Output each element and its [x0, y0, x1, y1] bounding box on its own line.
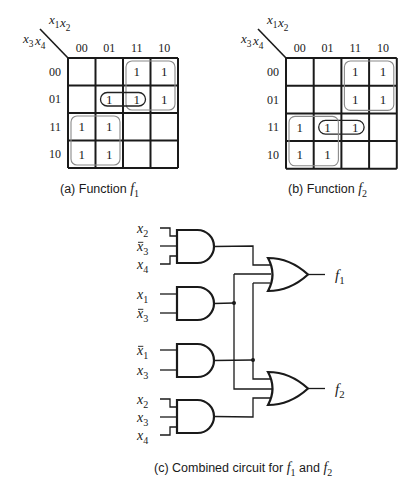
wire: [214, 303, 234, 304]
junction-dot: [251, 358, 255, 362]
input-and2-0: x1: [136, 287, 148, 305]
variable-text: x3: [136, 363, 148, 381]
wire: [214, 398, 270, 417]
col-var-x2: x2: [277, 15, 289, 33]
kmap-cell-value: 1: [79, 119, 86, 134]
kmap-b: x1x2x3x40001111000011110111111111(b) Fun…: [240, 12, 397, 199]
kmap-cell-value: 1: [106, 92, 113, 107]
input-wire: [160, 427, 177, 435]
input-and3-1: x3: [136, 363, 148, 381]
variable-text: x1: [266, 12, 278, 30]
input-wire: [160, 256, 177, 264]
kmap-cell-value: 1: [134, 92, 141, 107]
row-var-x3: x3: [240, 31, 252, 49]
variable-text: x4: [252, 33, 264, 51]
kmap-cell-value: 1: [79, 147, 86, 162]
diagram-canvas: x1x2x3x40001111000011110111111111(a) Fun…: [0, 0, 415, 493]
variable-text: x1: [136, 343, 148, 361]
wire: [214, 360, 253, 361]
input-and4-1: x3: [136, 410, 148, 428]
col-var-x1: x1: [48, 12, 60, 30]
circuit-caption: (c) Combined circuit for f1 and f2: [154, 460, 332, 478]
kmap-cell-value: 1: [380, 92, 387, 107]
variable-text: x3: [136, 410, 148, 428]
variable-text: x2: [136, 392, 148, 410]
input-and1-0: x2: [136, 221, 148, 239]
kmap-cell-value: 1: [106, 119, 113, 134]
kmap-cell-value: 1: [324, 147, 331, 162]
input-and1-1: x3: [136, 239, 148, 257]
input-and1-2: x4: [136, 257, 148, 275]
input-and3-0: x1: [136, 343, 148, 361]
variable-text: x3: [136, 306, 148, 324]
and4-and-gate-icon: [177, 400, 214, 433]
kmap-cell-value: 1: [380, 64, 387, 79]
output-label-f2: f2: [335, 381, 345, 400]
kmap-cell-value: 1: [297, 120, 304, 135]
col-header: 00: [294, 41, 306, 55]
input-wire: [160, 399, 177, 407]
kmap-a: x1x2x3x40001111000011110111111111(a) Fun…: [22, 12, 178, 199]
and3-and-gate-icon: [177, 344, 214, 377]
output-label-f1: f1: [335, 267, 345, 286]
kmap-caption: (b) Function f2: [288, 181, 367, 199]
wire: [253, 283, 270, 379]
col-var-x2: x2: [59, 15, 71, 33]
row-var-x4: x4: [34, 33, 46, 51]
row-header: 10: [267, 148, 279, 162]
variable-text: x3: [22, 31, 34, 49]
row-header: 10: [49, 147, 61, 161]
variable-text: x2: [59, 15, 71, 33]
variable-text: x1: [136, 287, 148, 305]
col-var-x1: x1: [266, 12, 278, 30]
kmap-cell-value: 1: [352, 92, 359, 107]
input-and4-2: x4: [136, 428, 148, 446]
variable-text: x3: [136, 239, 148, 257]
col-header: 11: [349, 41, 361, 55]
col-header: 10: [377, 41, 389, 55]
input-wire: [160, 228, 177, 236]
kmap-cell-value: 1: [106, 147, 113, 162]
kmap-cell-value: 1: [161, 92, 168, 107]
row-header: 00: [267, 65, 279, 79]
col-header: 01: [322, 41, 334, 55]
kmap-cell-value: 1: [324, 120, 331, 135]
col-header: 11: [131, 41, 143, 55]
col-header: 00: [76, 41, 88, 55]
variable-text: x4: [136, 257, 148, 275]
variable-text: x4: [34, 33, 46, 51]
kmap-caption: (a) Function f1: [60, 181, 139, 199]
input-and4-0: x2: [136, 392, 148, 410]
variable-text: x3: [240, 31, 252, 49]
and2-and-gate-icon: [177, 287, 214, 320]
or1-or-gate-icon: [268, 258, 308, 291]
row-var-x3: x3: [22, 31, 34, 49]
row-header: 11: [267, 120, 279, 134]
row-header: 01: [49, 92, 61, 106]
kmap-cell-value: 1: [134, 64, 141, 79]
input-and2-1: x3: [136, 306, 148, 324]
kmap-cell-value: 1: [352, 120, 359, 135]
or2-or-gate-icon: [268, 372, 308, 405]
col-header: 01: [103, 41, 115, 55]
wire: [214, 246, 270, 265]
and1-and-gate-icon: [177, 230, 214, 263]
col-header: 10: [158, 41, 170, 55]
combined-circuit: x2x3x4x1x3x1x3x2x3x4f1f2(c) Combined cir…: [136, 221, 345, 478]
variable-text: x1: [48, 12, 60, 30]
variable-text: f1: [335, 267, 345, 286]
row-header: 00: [49, 65, 61, 79]
row-header: 11: [49, 120, 61, 134]
variable-text: f2: [335, 381, 345, 400]
junction-dot: [232, 301, 236, 305]
variable-text: x2: [277, 15, 289, 33]
row-header: 01: [267, 93, 279, 107]
kmap-cell-value: 1: [161, 64, 168, 79]
variable-text: x4: [136, 428, 148, 446]
variable-text: x2: [136, 221, 148, 239]
kmap-cell-value: 1: [352, 64, 359, 79]
kmap-cell-value: 1: [297, 147, 304, 162]
row-var-x4: x4: [252, 33, 264, 51]
